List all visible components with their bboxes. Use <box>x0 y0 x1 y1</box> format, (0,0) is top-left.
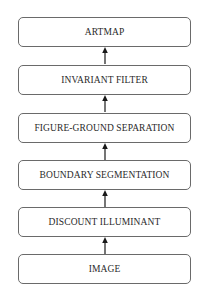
node-label: IMAGE <box>89 264 121 274</box>
node-label: BOUNDARY SEGMENTATION <box>39 170 169 180</box>
node-figure-ground-separation: FIGURE-GROUND SEPARATION <box>18 113 191 143</box>
node-label: INVARIANT FILTER <box>61 75 148 85</box>
node-artmap: ARTMAP <box>18 17 191 47</box>
node-label: DISCOUNT ILLUMINANT <box>49 217 161 227</box>
node-image: IMAGE <box>18 254 191 284</box>
arrow-up-icon <box>102 143 108 160</box>
node-boundary-segmentation: BOUNDARY SEGMENTATION <box>18 160 191 190</box>
arrow-up-icon <box>102 95 108 112</box>
arrow-up-icon <box>102 237 108 254</box>
node-discount-illuminant: DISCOUNT ILLUMINANT <box>18 207 191 237</box>
node-label: FIGURE-GROUND SEPARATION <box>34 123 174 133</box>
arrow-up-icon <box>102 47 108 64</box>
arrow-up-icon <box>102 190 108 207</box>
node-label: ARTMAP <box>85 27 125 37</box>
node-invariant-filter: INVARIANT FILTER <box>18 65 191 95</box>
